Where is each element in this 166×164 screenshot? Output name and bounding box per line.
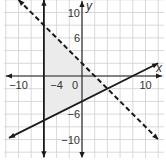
y-axis-label: y — [85, 0, 93, 13]
x-tick-label: 10 — [139, 79, 151, 91]
y-axis-arrow-down-icon — [79, 152, 84, 158]
x-tick-label: −10 — [9, 79, 28, 91]
coordinate-plane: −10−4010 106−6−10 x y — [0, 0, 166, 164]
y-axis-arrow-up-icon — [79, 1, 84, 7]
x-tick-label: 0 — [72, 79, 78, 91]
x-axis-arrow-left-icon — [6, 73, 12, 78]
y-tick-label: 6 — [74, 32, 80, 44]
y-tick-label: 10 — [68, 7, 80, 19]
x-tick-label: −4 — [50, 79, 63, 91]
y-tick-label: −6 — [67, 108, 80, 120]
dashed-boundary-line — [19, 0, 159, 139]
x-axis-label: x — [155, 61, 163, 75]
y-tick-label: −10 — [61, 134, 80, 146]
